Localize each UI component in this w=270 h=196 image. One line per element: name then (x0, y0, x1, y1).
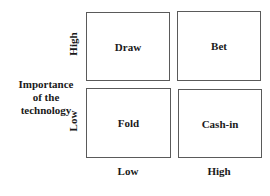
quadrant-fold-label: Fold (118, 117, 139, 129)
quadrant-bet: Bet (177, 11, 261, 81)
x-axis-high-label: High (197, 165, 241, 177)
x-axis-low-label: Low (106, 165, 150, 177)
y-axis-title-line-1: Importance (4, 78, 88, 91)
quadrant-cash-in-label: Cash-in (202, 118, 239, 130)
quadrant-bet-label: Bet (211, 40, 227, 52)
quadrant-cash-in: Cash-in (178, 89, 262, 158)
quadrant-fold: Fold (86, 88, 171, 158)
quadrant-draw-label: Draw (115, 41, 141, 53)
y-axis-title-line-2: of the (4, 91, 88, 104)
y-axis-high-label: High (67, 29, 79, 59)
quadrant-draw: Draw (86, 12, 170, 81)
y-axis-low-label: Low (67, 106, 79, 136)
